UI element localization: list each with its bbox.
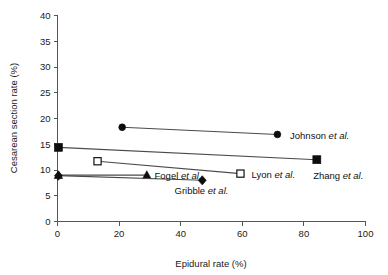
chart-container: 0510152025303540020406080100 Johnson et … [0, 0, 388, 275]
series-label: Gribble et al. [175, 185, 229, 196]
marker-open-square [237, 170, 244, 177]
y-tick-label: 40 [40, 10, 51, 21]
marker-filled-square [313, 156, 321, 164]
y-tick-label: 5 [45, 190, 50, 201]
y-tick-label: 10 [40, 164, 51, 175]
x-tick-label: 20 [114, 228, 125, 239]
marker-filled-diamond [54, 171, 62, 180]
x-tick-label: 60 [237, 228, 248, 239]
series-point-labels: Johnson et al.Zhang et al.Lyon et al.Fog… [155, 130, 364, 196]
x-tick-label: 100 [358, 228, 374, 239]
series-label: Lyon et al. [252, 169, 295, 180]
scatter-chart: 0510152025303540020406080100 Johnson et … [0, 0, 388, 275]
y-tick-label: 30 [40, 61, 51, 72]
series-connector [122, 127, 277, 134]
marker-filled-square [54, 143, 62, 151]
marker-filled-circle [274, 131, 281, 138]
y-tick-label: 15 [40, 139, 51, 150]
series-label: Zhang et al. [313, 170, 363, 181]
y-tick-label: 20 [40, 113, 51, 124]
y-tick-label: 35 [40, 36, 51, 47]
series-label: Johnson et al. [290, 130, 349, 141]
x-tick-label: 40 [175, 228, 186, 239]
axis-tick-labels: 0510152025303540020406080100 [40, 10, 374, 239]
y-tick-label: 0 [45, 216, 50, 227]
x-tick-label: 0 [55, 228, 60, 239]
series-label: Fogel et al. [155, 170, 202, 181]
y-axis-title: Cesarean section rate (%) [8, 63, 19, 173]
series-1 [119, 124, 281, 138]
x-axis-title: Epidural rate (%) [175, 258, 246, 269]
y-tick-label: 25 [40, 87, 51, 98]
x-tick-label: 80 [299, 228, 310, 239]
marker-filled-circle [119, 124, 126, 131]
marker-open-square [94, 158, 101, 165]
